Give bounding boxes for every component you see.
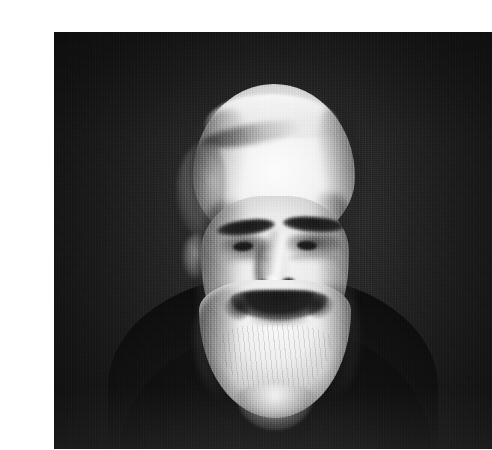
under-eye-right xyxy=(289,253,339,263)
subject-head xyxy=(175,84,371,384)
mouth-line xyxy=(249,316,309,325)
portrait-photograph xyxy=(54,32,492,449)
